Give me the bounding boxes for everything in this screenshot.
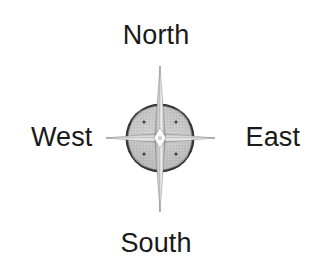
compass-rose-figure: North West East South <box>0 0 312 271</box>
compass-star <box>106 66 215 212</box>
compass-label-west: West <box>31 124 92 151</box>
compass-label-east: East <box>246 124 300 151</box>
compass-label-south: South <box>0 230 312 257</box>
compass-label-north: North <box>0 22 312 49</box>
